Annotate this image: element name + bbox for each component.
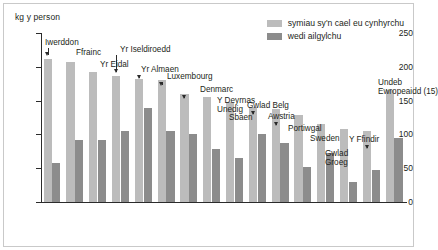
pointer-arrow-icon <box>116 55 117 72</box>
category-label: Iwerddon <box>45 38 79 47</box>
bar-produced <box>180 94 188 202</box>
category-label: Denmarc <box>200 85 233 94</box>
bar-recycled <box>235 158 243 202</box>
category-label: Sbaen <box>229 113 253 122</box>
y-tick-mark <box>36 202 41 203</box>
bar-group <box>363 33 386 202</box>
bar-recycled <box>52 163 60 202</box>
bar-group <box>317 33 340 202</box>
pointer-arrow-icon <box>139 75 140 78</box>
category-label: Y Ffindir <box>349 135 379 144</box>
bar-group <box>386 33 409 202</box>
bar-produced <box>112 76 120 202</box>
y-tick-mark <box>36 67 41 68</box>
x-axis-line <box>41 202 407 203</box>
legend-item-produced: symiau sy'n cael eu cynhyrchu <box>267 18 404 28</box>
bar-group <box>158 33 181 202</box>
bar-group <box>203 33 226 202</box>
legend-label-produced: symiau sy'n cael eu cynhyrchu <box>288 18 404 28</box>
bar-recycled <box>144 108 152 202</box>
bar-recycled <box>166 131 174 202</box>
bar-group <box>294 33 317 202</box>
bar-recycled <box>75 140 83 202</box>
bar-recycled <box>372 170 380 202</box>
category-label: Sweden <box>310 134 340 143</box>
bar-produced <box>66 62 74 202</box>
bar-group <box>66 33 89 202</box>
pointer-arrow-icon <box>48 48 49 54</box>
bar-recycled <box>121 131 129 202</box>
category-label: Luxembourg <box>167 72 213 81</box>
bar-recycled <box>303 167 311 202</box>
bar-produced <box>203 97 211 202</box>
y-tick-mark <box>36 101 41 102</box>
y-tick-mark <box>36 134 41 135</box>
pointer-arrow-icon <box>253 111 254 114</box>
bar-produced <box>89 72 97 202</box>
pointer-arrow-icon <box>162 82 163 85</box>
bar-recycled <box>258 134 266 202</box>
bar-produced <box>158 80 166 202</box>
bar-recycled <box>98 140 106 202</box>
bars-container <box>42 33 407 202</box>
bar-group <box>89 33 112 202</box>
bar-group <box>135 33 158 202</box>
bar-recycled <box>394 138 402 202</box>
bar-group <box>44 33 67 202</box>
light-swatch-icon <box>267 20 282 27</box>
pointer-arrow-icon <box>184 95 185 98</box>
bar-recycled <box>212 149 220 202</box>
pointer-arrow-icon <box>276 122 277 125</box>
category-label: Awstria <box>268 112 295 121</box>
category-label: Yr Eidal <box>100 60 129 69</box>
bar-recycled <box>189 134 197 202</box>
category-label: Gwlad Belg <box>247 101 289 110</box>
bar-produced <box>135 79 143 202</box>
bar-produced <box>44 59 52 202</box>
category-label: Yr Iseldiroedd <box>120 45 171 54</box>
pointer-arrow-icon <box>367 145 368 148</box>
y-tick-mark <box>36 168 41 169</box>
bar-recycled <box>349 182 357 202</box>
category-label: Gwlad Groeg <box>325 149 348 168</box>
category-label: Portiwgal <box>288 124 322 133</box>
category-label: Undeb Ewropeaidd (15) <box>378 78 438 97</box>
bar-group <box>340 33 363 202</box>
bar-produced <box>386 90 394 202</box>
y-axis <box>4 4 41 248</box>
y-tick-mark <box>36 33 41 34</box>
chart-frame: kg y person symiau sy'n cael eu cynhyrch… <box>3 3 414 247</box>
bar-group <box>180 33 203 202</box>
category-label: Ffrainc <box>76 48 101 57</box>
bar-recycled <box>280 143 288 202</box>
